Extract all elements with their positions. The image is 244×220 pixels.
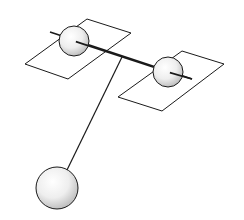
- pendulum-diagram: [0, 0, 244, 220]
- diagram-canvas: [0, 0, 244, 220]
- right-sphere: [153, 57, 183, 87]
- left-sphere: [59, 26, 89, 56]
- pendulum-bob: [36, 167, 78, 209]
